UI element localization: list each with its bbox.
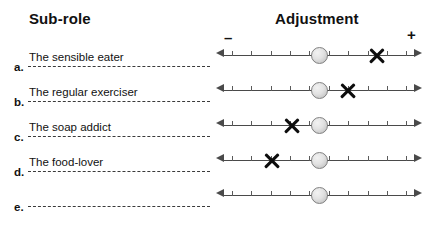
x-mark-icon[interactable] xyxy=(282,116,301,135)
scale-tick xyxy=(232,51,233,56)
scale-tick xyxy=(271,51,272,56)
scale-tick xyxy=(290,86,291,91)
scale-tick xyxy=(368,156,369,161)
x-mark-icon[interactable] xyxy=(263,151,282,170)
page-title-sub-role: Sub-role xyxy=(29,10,91,27)
scale-tick xyxy=(232,86,233,91)
scale-knob-circle[interactable] xyxy=(311,117,328,134)
row-letter: a. xyxy=(14,62,24,74)
scale-tick xyxy=(329,121,330,126)
scale-tick xyxy=(406,121,407,126)
scale-tick xyxy=(348,191,349,196)
scale-tick xyxy=(251,86,252,91)
scale-tick xyxy=(251,191,252,196)
write-in-leader-line[interactable] xyxy=(28,101,210,102)
scale-tick xyxy=(232,121,233,126)
write-in-leader-line[interactable] xyxy=(28,66,210,67)
scale-tick xyxy=(329,86,330,91)
adjustment-scale[interactable] xyxy=(216,143,422,177)
scale-tick xyxy=(290,191,291,196)
scale-tick xyxy=(406,51,407,56)
scale-tick xyxy=(271,121,272,126)
scale-tick xyxy=(271,86,272,91)
scale-tick xyxy=(329,191,330,196)
sub-role-row: e. xyxy=(14,178,210,212)
row-letter: e. xyxy=(14,202,24,214)
scale-tick xyxy=(251,156,252,161)
adjustment-scale[interactable] xyxy=(216,73,422,107)
arrow-right-icon xyxy=(414,119,422,127)
scale-tick xyxy=(251,121,252,126)
scale-tick xyxy=(348,156,349,161)
x-mark-icon[interactable] xyxy=(368,46,387,65)
arrow-left-icon xyxy=(216,119,224,127)
arrow-right-icon xyxy=(414,154,422,162)
arrow-right-icon xyxy=(414,189,422,197)
row-letter: d. xyxy=(14,167,24,179)
row-letter: c. xyxy=(14,132,24,144)
sub-role-row: b.The regular exerciser xyxy=(14,73,210,107)
scale-tick xyxy=(232,191,233,196)
sub-role-row: a.The sensible eater xyxy=(14,38,210,72)
arrow-left-icon xyxy=(216,189,224,197)
scale-knob-circle[interactable] xyxy=(311,187,328,204)
scale-tick xyxy=(368,86,369,91)
write-in-leader-line[interactable] xyxy=(28,171,210,172)
adjustment-scale[interactable] xyxy=(216,108,422,142)
write-in-leader-line[interactable] xyxy=(28,136,210,137)
write-in-leader-line[interactable] xyxy=(28,206,210,207)
sub-role-label: The sensible eater xyxy=(29,51,124,64)
scale-tick xyxy=(271,191,272,196)
scale-tick xyxy=(329,156,330,161)
worksheet-canvas: Sub-role Adjustment – + a.The sensible e… xyxy=(0,0,436,229)
arrow-right-icon xyxy=(414,84,422,92)
scale-knob-circle[interactable] xyxy=(311,152,328,169)
sub-role-row: c.The soap addict xyxy=(14,108,210,142)
scale-tick xyxy=(329,51,330,56)
scale-tick xyxy=(348,51,349,56)
scale-tick xyxy=(232,156,233,161)
adjustment-scale[interactable] xyxy=(216,38,422,72)
row-letter: b. xyxy=(14,97,24,109)
scale-tick xyxy=(406,86,407,91)
scale-tick xyxy=(368,191,369,196)
scale-tick xyxy=(387,121,388,126)
scale-tick xyxy=(368,121,369,126)
page-title-adjustment: Adjustment xyxy=(275,10,359,27)
arrow-right-icon xyxy=(414,49,422,57)
scale-tick xyxy=(290,156,291,161)
sub-role-label: The soap addict xyxy=(29,121,111,134)
arrow-left-icon xyxy=(216,49,224,57)
x-mark-icon[interactable] xyxy=(339,81,358,100)
scale-tick xyxy=(387,156,388,161)
scale-tick xyxy=(290,51,291,56)
sub-role-label: The regular exerciser xyxy=(29,86,138,99)
scale-tick xyxy=(387,51,388,56)
arrow-left-icon xyxy=(216,84,224,92)
scale-tick xyxy=(348,121,349,126)
scale-knob-circle[interactable] xyxy=(311,82,328,99)
scale-tick xyxy=(406,191,407,196)
arrow-left-icon xyxy=(216,154,224,162)
adjustment-scale[interactable] xyxy=(216,178,422,212)
scale-knob-circle[interactable] xyxy=(311,47,328,64)
sub-role-label: The food-lover xyxy=(29,156,103,169)
scale-tick xyxy=(387,191,388,196)
sub-role-row: d.The food-lover xyxy=(14,143,210,177)
scale-tick xyxy=(387,86,388,91)
scale-tick xyxy=(406,156,407,161)
scale-tick xyxy=(251,51,252,56)
